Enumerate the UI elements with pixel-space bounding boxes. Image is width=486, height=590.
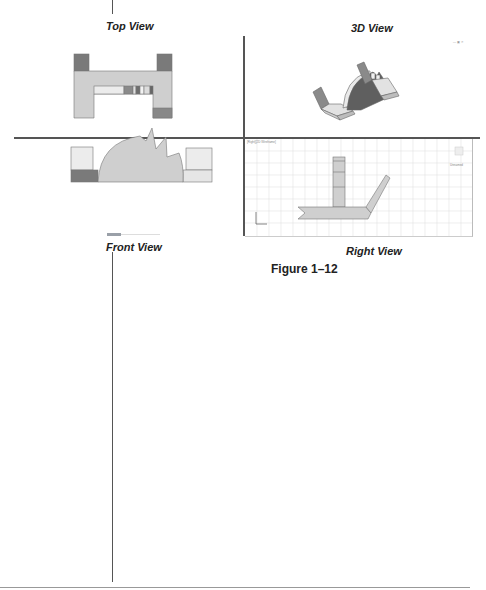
viewcube-icon [455, 147, 463, 155]
right-view-viewport: [Right][2D Wireframe] Unnamed [245, 139, 473, 237]
page-bottom-rule [0, 587, 470, 588]
front-view-caption: Front View [106, 241, 162, 253]
right-view-grid [245, 139, 472, 236]
front-view-drawing [0, 137, 243, 237]
svg-text:— ▣ ✕: — ▣ ✕ [453, 40, 464, 44]
viewcube-label[interactable]: Unnamed [450, 163, 463, 167]
top-view-drawing [0, 0, 243, 137]
page-margin-rule [112, 252, 113, 582]
figure-number: Figure 1–12 [271, 262, 338, 276]
status-tiny-badge [107, 233, 121, 236]
right-view-caption: Right View [346, 245, 402, 257]
viewport-label[interactable]: [Right][2D Wireframe] [247, 140, 276, 144]
3d-view-drawing: — ▣ ✕ [243, 0, 486, 137]
ucs-icon [256, 212, 267, 224]
